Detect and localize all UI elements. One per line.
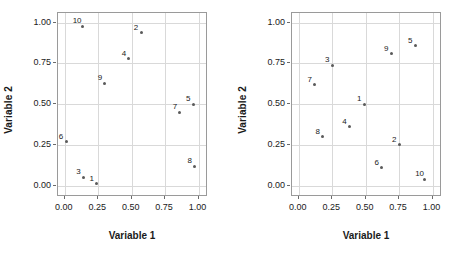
- scatter-plot-figure: Variable 2 12345678910 Variable 1 0.000.…: [0, 0, 467, 255]
- x-axis-tick-label: 0.50: [122, 202, 140, 212]
- data-point-label: 3: [76, 168, 80, 176]
- plot-area-left: 12345678910: [57, 12, 207, 196]
- y-axis-tick-label: 0.00: [25, 180, 51, 190]
- data-point-label: 1: [357, 95, 361, 103]
- data-point: [390, 52, 393, 55]
- x-axis-tick: [131, 196, 132, 199]
- data-point: [193, 165, 196, 168]
- gridline-horizontal: [58, 145, 206, 146]
- data-point-label: 5: [408, 37, 412, 45]
- data-point: [363, 103, 366, 106]
- gridline-horizontal: [292, 104, 440, 105]
- x-axis-tick-label: 0.25: [322, 202, 340, 212]
- x-axis-tick-label: 1.00: [423, 202, 441, 212]
- plot-area-right: 12345678910: [291, 12, 441, 196]
- y-axis-tick-label: 0.75: [259, 57, 285, 67]
- x-axis-tick: [164, 196, 165, 199]
- gridline-horizontal: [58, 63, 206, 64]
- data-point-label: 7: [173, 103, 177, 111]
- x-axis-tick: [432, 196, 433, 199]
- x-axis-tick-label: 0.75: [155, 202, 173, 212]
- y-axis-title-left: Variable 2: [2, 12, 16, 208]
- y-axis-title-right: Variable 2: [236, 12, 250, 208]
- y-axis-tick: [287, 103, 290, 104]
- x-axis-tick: [198, 196, 199, 199]
- x-axis-tick-label: 0.00: [55, 202, 73, 212]
- data-point: [65, 140, 68, 143]
- data-point-label: 4: [342, 118, 346, 126]
- data-point-label: 7: [308, 76, 312, 84]
- data-point: [380, 166, 383, 169]
- data-point-label: 6: [59, 133, 63, 141]
- data-point-label: 3: [325, 56, 329, 64]
- y-axis-tick-label: 0.50: [25, 98, 51, 108]
- y-axis-tick: [287, 185, 290, 186]
- x-axis-tick-label: 0.50: [356, 202, 374, 212]
- scatter-panel-right: Variable 2 12345678910 Variable 1 0.000.…: [234, 0, 467, 255]
- data-point-label: 6: [374, 159, 378, 167]
- data-point-label: 8: [316, 128, 320, 136]
- data-point: [192, 103, 195, 106]
- data-point: [313, 83, 316, 86]
- y-axis-tick-label: 1.00: [259, 17, 285, 27]
- data-point-label: 4: [122, 50, 126, 58]
- data-point-label: 2: [134, 24, 138, 32]
- x-axis-tick-label: 0.00: [289, 202, 307, 212]
- data-point: [348, 125, 351, 128]
- scatter-panel-left: Variable 2 12345678910 Variable 1 0.000.…: [0, 0, 233, 255]
- data-point: [103, 82, 106, 85]
- data-point: [178, 111, 181, 114]
- x-axis-tick-label: 0.75: [389, 202, 407, 212]
- gridline-horizontal: [58, 104, 206, 105]
- data-point: [127, 57, 130, 60]
- x-axis-tick: [298, 196, 299, 199]
- y-axis-tick: [53, 103, 56, 104]
- data-point: [331, 64, 334, 67]
- y-axis-tick-label: 0.75: [25, 57, 51, 67]
- data-point: [321, 135, 324, 138]
- y-axis-tick-label: 1.00: [25, 17, 51, 27]
- x-axis-tick: [398, 196, 399, 199]
- x-axis-tick: [97, 196, 98, 199]
- x-axis-tick: [365, 196, 366, 199]
- data-point-label: 1: [90, 175, 94, 183]
- data-point-label: 10: [73, 17, 82, 25]
- data-point: [414, 44, 417, 47]
- x-axis-title-right: Variable 1: [291, 230, 441, 242]
- y-axis-tick: [287, 22, 290, 23]
- gridline-horizontal: [292, 186, 440, 187]
- x-axis-tick-label: 0.25: [88, 202, 106, 212]
- data-point-label: 5: [186, 95, 190, 103]
- y-axis-tick: [53, 144, 56, 145]
- data-point-label: 2: [392, 136, 396, 144]
- gridline-horizontal: [58, 186, 206, 187]
- y-axis-tick: [53, 185, 56, 186]
- y-axis-tick: [287, 62, 290, 63]
- y-axis-tick-label: 0.25: [259, 139, 285, 149]
- y-axis-tick-label: 0.50: [259, 98, 285, 108]
- data-point: [140, 31, 143, 34]
- y-axis-tick-label: 0.25: [25, 139, 51, 149]
- gridline-horizontal: [292, 63, 440, 64]
- gridline-horizontal: [292, 145, 440, 146]
- x-axis-title-left: Variable 1: [57, 230, 207, 242]
- x-axis-tick: [64, 196, 65, 199]
- data-point-label: 9: [98, 74, 102, 82]
- y-axis-tick: [287, 144, 290, 145]
- data-point-label: 10: [415, 170, 424, 178]
- y-axis-tick: [53, 22, 56, 23]
- y-axis-tick-label: 0.00: [259, 180, 285, 190]
- x-axis-tick-label: 1.00: [189, 202, 207, 212]
- gridline-horizontal: [292, 23, 440, 24]
- data-point: [82, 176, 85, 179]
- data-point-label: 8: [187, 157, 191, 165]
- y-axis-tick: [53, 62, 56, 63]
- data-point: [398, 143, 401, 146]
- data-point-label: 9: [384, 45, 388, 53]
- x-axis-tick: [331, 196, 332, 199]
